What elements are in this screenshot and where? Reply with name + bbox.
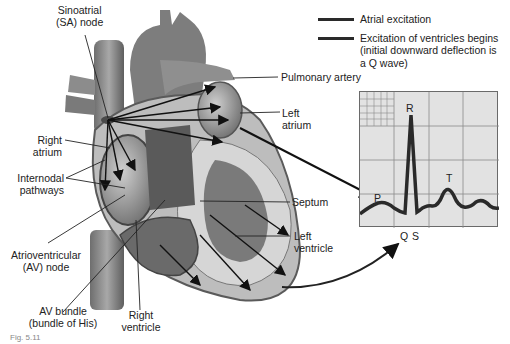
legend-swatch-ventricles xyxy=(318,37,354,40)
label-left-atrium: Left atrium xyxy=(282,107,311,131)
label-septum: Septum xyxy=(292,196,328,208)
legend-label-ventricles-3: a Q wave) xyxy=(360,57,508,70)
ecg-trace xyxy=(360,92,499,228)
label-right-atrium-line1: Right xyxy=(26,134,62,146)
label-left-ventricle: Left ventricle xyxy=(294,230,333,254)
legend: Atrial excitation Excitation of ventricl… xyxy=(318,13,508,75)
legend-item-ventricles: Excitation of ventricles begins (initial… xyxy=(318,32,508,70)
label-left-atrium-line1: Left xyxy=(282,107,311,119)
label-av-node-line1: Atrioventricular xyxy=(4,249,88,261)
ecg-label-s: S xyxy=(412,230,419,242)
label-av-node-line2: (AV) node xyxy=(4,261,88,273)
label-av-bundle-line2: (bundle of His) xyxy=(24,317,102,329)
legend-label-ventricles-2: (initial downward deflection is xyxy=(360,44,508,57)
label-av-node: Atrioventricular (AV) node xyxy=(4,249,88,273)
label-av-bundle-line1: AV bundle xyxy=(24,305,102,317)
label-internodal-line2: pathways xyxy=(6,184,64,196)
legend-label-ventricles-1: Excitation of ventricles begins xyxy=(360,32,508,45)
legend-swatch-atrial xyxy=(318,18,354,21)
ecg-label-r: R xyxy=(406,102,414,114)
label-left-ventricle-line1: Left xyxy=(294,230,333,242)
label-pulmonary-artery: Pulmonary artery xyxy=(281,71,361,83)
label-av-bundle: AV bundle (bundle of His) xyxy=(24,305,102,329)
label-sa-node-line2: (SA) node xyxy=(56,16,103,28)
ecg-label-t: T xyxy=(446,172,452,184)
figure-reference: Fig. 5.11 xyxy=(10,332,41,344)
label-sa-node-line1: Sinoatrial xyxy=(56,4,103,16)
label-right-ventricle-line2: ventricle xyxy=(118,321,164,333)
label-left-atrium-line2: atrium xyxy=(282,119,311,131)
legend-label-atrial: Atrial excitation xyxy=(360,13,431,25)
ecg-panel: P R T xyxy=(359,91,498,227)
label-right-ventricle-line1: Right xyxy=(118,309,164,321)
ecg-label-p: P xyxy=(374,192,381,204)
label-internodal-pathways: Internodal pathways xyxy=(6,172,64,196)
label-right-ventricle: Right ventricle xyxy=(118,309,164,333)
ecg-label-q: Q xyxy=(400,230,408,242)
label-internodal-line1: Internodal xyxy=(6,172,64,184)
label-sa-node: Sinoatrial (SA) node xyxy=(56,4,103,28)
label-left-ventricle-line2: ventricle xyxy=(294,242,333,254)
legend-item-atrial: Atrial excitation xyxy=(318,13,508,26)
label-right-atrium: Right atrium xyxy=(26,134,62,158)
label-right-atrium-line2: atrium xyxy=(26,146,62,158)
